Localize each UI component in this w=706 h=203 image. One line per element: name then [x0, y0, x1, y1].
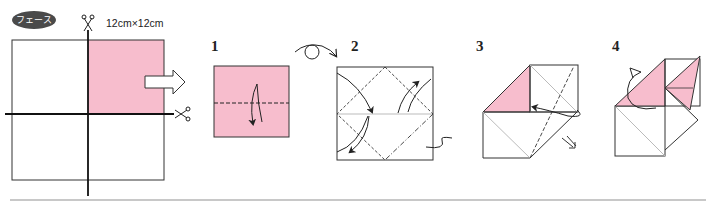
step-3-diagram	[483, 65, 580, 158]
step-4-diagram	[615, 56, 700, 156]
step-2-diagram	[337, 67, 452, 160]
scissors-icon	[82, 15, 94, 31]
divider-line	[10, 199, 706, 201]
scissors-icon	[175, 107, 190, 121]
step-1-diagram	[214, 66, 289, 137]
origami-diagram	[0, 0, 706, 203]
turn-over-icon	[295, 45, 336, 59]
cutting-diagram	[5, 15, 190, 196]
